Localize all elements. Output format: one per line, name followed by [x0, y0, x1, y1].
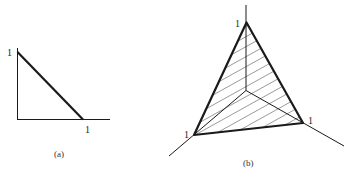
y-axis-label: 1	[7, 47, 12, 58]
top-vertex-label: 1	[235, 18, 240, 29]
simplex-triangle	[194, 23, 303, 136]
hatch-pattern	[150, 0, 330, 172]
diagram-canvas: 1 1 (a)	[0, 0, 350, 172]
figure-a: 1 1 (a)	[7, 47, 110, 159]
x-axis-label: 1	[85, 124, 90, 135]
caption-b: (b)	[243, 158, 254, 168]
left-vertex-label: 1	[184, 129, 189, 140]
caption-a: (a)	[54, 149, 64, 159]
right-vertex-label: 1	[308, 115, 313, 126]
figure-b: 1 1 1 (b)	[150, 0, 344, 172]
simplex-line	[18, 52, 84, 120]
